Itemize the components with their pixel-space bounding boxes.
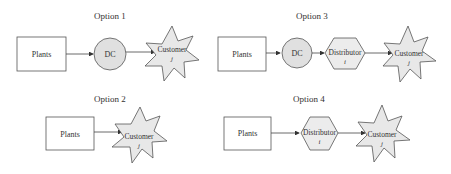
option-2: Option 2 Plants Customer j	[46, 94, 167, 163]
svg-text:i: i	[344, 58, 346, 66]
customer-label: Customer	[157, 45, 187, 54]
svg-text:Plants: Plants	[232, 50, 252, 59]
svg-text:Customer: Customer	[367, 130, 397, 139]
supply-chain-options-diagram: Option 1 Plants DC Customer j Option 2 P…	[0, 0, 451, 174]
option-2-title: Option 2	[94, 94, 126, 104]
svg-text:j: j	[137, 142, 140, 150]
svg-text:i: i	[319, 138, 321, 146]
svg-text:j: j	[170, 55, 173, 63]
option-1: Option 1 Plants DC Customer j	[17, 11, 199, 81]
option-4: Option 4 Plants Distributor i Customer j	[224, 94, 410, 162]
svg-text:Customer: Customer	[124, 132, 154, 141]
option-4-title: Option 4	[293, 94, 325, 104]
svg-text:DC: DC	[291, 49, 302, 58]
plants-label: Plants	[32, 50, 52, 59]
option-3-title: Option 3	[296, 11, 328, 21]
svg-text:Customer: Customer	[394, 49, 424, 58]
svg-text:j: j	[380, 140, 383, 148]
svg-text:Plants: Plants	[60, 130, 80, 139]
svg-text:Distributor: Distributor	[303, 128, 336, 137]
svg-text:Plants: Plants	[238, 129, 258, 138]
option-3: Option 3 Plants DC Distributor i Custome…	[218, 11, 436, 82]
dc-label: DC	[104, 50, 115, 59]
svg-text:j: j	[407, 59, 410, 67]
option-1-title: Option 1	[94, 11, 126, 21]
distributor-label: Distributor	[329, 48, 362, 57]
